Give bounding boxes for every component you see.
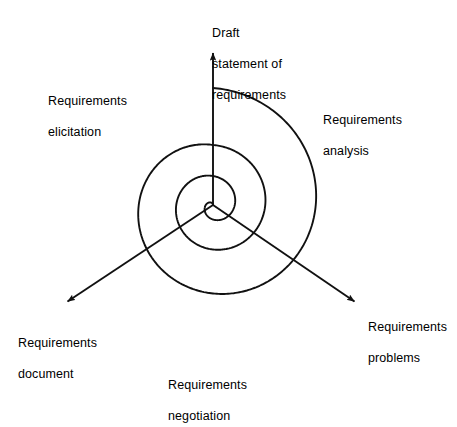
label-elicitation-line-1: Requirements xyxy=(48,94,127,110)
label-negotiation-line-2: negotiation xyxy=(168,409,247,425)
label-requirements-elicitation: Requirements elicitation xyxy=(48,78,127,156)
label-elicitation-line-2: elicitation xyxy=(48,125,127,141)
label-problems-line-2: problems xyxy=(368,351,447,367)
label-draft-line-2: statement of xyxy=(212,57,286,73)
requirements-problems-axis-line xyxy=(213,205,355,302)
spiral-curve xyxy=(138,88,316,294)
label-draft-line-1: Draft xyxy=(212,26,286,42)
label-draft-statement-of-requirements: Draft statement of requirements xyxy=(212,10,286,119)
label-negotiation-line-1: Requirements xyxy=(168,378,247,394)
label-document-line-2: document xyxy=(18,367,97,383)
requirements-document-axis-line xyxy=(68,205,214,302)
label-requirements-problems: Requirements problems xyxy=(368,304,447,382)
label-analysis-line-2: analysis xyxy=(323,144,402,160)
label-draft-line-3: requirements xyxy=(212,88,286,104)
label-requirements-negotiation: Requirements negotiation xyxy=(168,362,247,427)
label-document-line-1: Requirements xyxy=(18,336,97,352)
label-requirements-document: Requirements document xyxy=(18,320,97,398)
label-requirements-analysis: Requirements analysis xyxy=(323,97,402,175)
label-analysis-line-1: Requirements xyxy=(323,113,402,129)
label-problems-line-1: Requirements xyxy=(368,320,447,336)
